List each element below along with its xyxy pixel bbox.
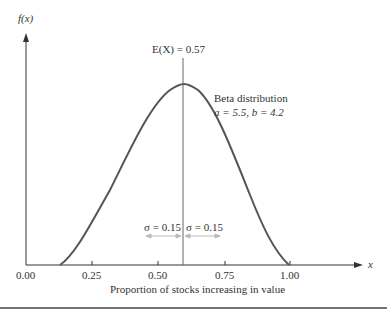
mean-label: E(X) = 0.57 xyxy=(152,43,205,55)
sigma-left-label: σ = 0.15 xyxy=(144,221,181,233)
x-axis-title: Proportion of stocks increasing in value xyxy=(110,283,285,295)
distribution-label: Beta distribution xyxy=(214,92,288,104)
x-axis-symbol: x xyxy=(368,258,373,270)
x-axis-arrow-icon xyxy=(354,262,363,268)
y-axis-arrow-icon xyxy=(23,33,29,42)
sigma-right-label: σ = 0.15 xyxy=(186,221,223,233)
params-label: a = 5.5, b = 4.2 xyxy=(214,106,284,118)
tick-label-100: 1.00 xyxy=(280,269,299,281)
tick-label-050: 0.50 xyxy=(148,269,167,281)
tick-label-075: 0.75 xyxy=(215,269,234,281)
tick-label-0: 0.00 xyxy=(16,269,35,281)
x-ticks xyxy=(92,261,290,265)
tick-label-025: 0.25 xyxy=(82,269,101,281)
y-axis-label: f(x) xyxy=(18,12,33,24)
